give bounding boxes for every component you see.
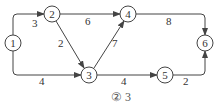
svg-text:3: 3 [86,69,92,81]
weight-1-3: 4 [39,75,45,87]
weight-4-6: 8 [166,15,172,27]
weight-1-2: 3 [32,17,38,29]
edge-1-3 [13,51,81,75]
svg-text:6: 6 [202,37,208,49]
weight-2-4: 6 [85,15,91,27]
svg-text:1: 1 [10,37,16,49]
node-6: 6 [197,35,213,51]
svg-text:5: 5 [162,69,168,81]
svg-text:2: 2 [49,8,55,20]
node-5: 5 [157,67,173,83]
graph-canvas: 3 4 6 2 7 4 8 2 1 2 3 4 5 6 [0,0,220,110]
edge-3-4 [94,21,124,68]
node-4: 4 [120,6,136,22]
weight-2-3: 2 [58,37,64,49]
svg-text:4: 4 [125,8,131,20]
node-3: 3 [81,67,97,83]
weight-5-6: 2 [183,75,189,87]
caption: ② 3 [111,90,131,105]
weight-3-5: 4 [121,75,127,87]
edge-5-6 [173,51,205,75]
edge-1-2 [13,14,44,35]
node-1: 1 [5,35,21,51]
node-2: 2 [44,6,60,22]
weight-3-4: 7 [112,37,118,49]
